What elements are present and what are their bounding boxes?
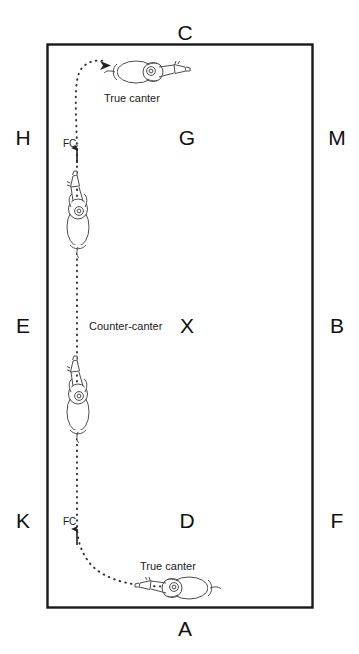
marker-m: M [322,127,352,148]
dressage-arena-diagram: C A H E K M B F G X D True canter Counte… [0,0,359,654]
marker-x: X [172,315,202,336]
marker-c: C [170,22,200,43]
marker-d: D [172,510,202,531]
marker-k: K [8,510,38,531]
gait-label-counter-canter: Counter-canter [89,321,162,332]
marker-e: E [8,315,38,336]
marker-g: G [172,127,202,148]
marker-a: A [170,618,200,639]
flying-change-label-lower: FC [63,517,76,527]
marker-h: H [8,127,38,148]
marker-b: B [322,315,352,336]
gait-label-true-canter-bottom: True canter [140,561,196,572]
gait-label-true-canter-top: True canter [104,93,160,104]
flying-change-label-upper: FC [63,139,76,149]
marker-f: F [322,510,352,531]
